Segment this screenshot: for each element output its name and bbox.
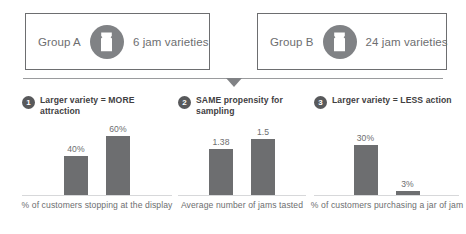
chart-2-plot: 1.38 1.5: [178, 116, 306, 196]
finding-1: 1 Larger variety = MORE attraction: [22, 95, 162, 117]
finding-2-title: SAME propensity for sampling: [196, 95, 306, 117]
chart-1-bar-group-a: 40%: [64, 116, 88, 196]
bar: [251, 139, 275, 196]
chart-2-caption: Average number of jams tasted: [176, 200, 308, 212]
chart-3-bar-group-a: 30%: [354, 116, 378, 196]
chart-3-caption: % of customers purchasing a jar of jam: [308, 200, 466, 212]
chart-3-value-group-a: 30%: [357, 133, 375, 143]
jam-jar-icon: [323, 25, 357, 59]
chart-jams-tasted: 1.38 1.5: [178, 116, 306, 196]
down-triangle-arrow-icon: [226, 78, 242, 87]
finding-3-title: Larger variety = LESS action: [332, 95, 452, 106]
chart-2-bar-group-b: 1.5: [251, 116, 275, 196]
infographic-canvas: Group A 6 jam varieties Group B 24 jam v…: [0, 0, 466, 234]
finding-2-header: 2 SAME propensity for sampling: [178, 95, 306, 117]
finding-2: 2 SAME propensity for sampling: [178, 95, 306, 117]
chart-2-baseline: [178, 195, 306, 196]
group-b-label: Group B: [270, 36, 314, 48]
chart-3-value-group-b: 3%: [401, 179, 414, 189]
chart-1-value-group-b: 60%: [109, 124, 127, 134]
finding-3-header: 3 Larger variety = LESS action: [314, 95, 454, 109]
finding-2-number-badge: 2: [178, 96, 191, 109]
chart-2-value-group-a: 1.38: [212, 137, 229, 147]
group-a-value: 6 jam varieties: [133, 36, 209, 48]
chart-1-caption: % of customers stopping at the display: [12, 200, 182, 212]
bar: [209, 149, 233, 196]
jam-jar-icon: [90, 25, 124, 59]
chart-1-plot: 40% 60%: [22, 116, 172, 196]
group-a-label: Group A: [38, 36, 81, 48]
group-a-box: Group A 6 jam varieties: [25, 13, 210, 70]
bar: [64, 156, 88, 196]
finding-1-number-badge: 1: [22, 96, 35, 109]
group-b-value: 24 jam varieties: [366, 36, 448, 48]
chart-1-baseline: [22, 195, 172, 196]
chart-3-bar-group-b: 3%: [396, 116, 420, 196]
bar: [106, 136, 130, 196]
group-b-box: Group B 24 jam varieties: [257, 13, 447, 70]
chart-2-value-group-b: 1.5: [257, 127, 269, 137]
finding-1-title: Larger variety = MORE attraction: [40, 95, 162, 117]
chart-customers-purchasing: 30% 3%: [314, 116, 459, 196]
chart-2-bar-group-a: 1.38: [209, 116, 233, 196]
chart-3-baseline: [314, 195, 459, 196]
finding-3-number-badge: 3: [314, 96, 327, 109]
chart-3-plot: 30% 3%: [314, 116, 459, 196]
bar: [354, 145, 378, 196]
chart-customers-stopping: 40% 60%: [22, 116, 172, 196]
chart-1-bar-group-b: 60%: [106, 116, 130, 196]
finding-3: 3 Larger variety = LESS action: [314, 95, 454, 109]
finding-1-header: 1 Larger variety = MORE attraction: [22, 95, 162, 117]
chart-1-value-group-a: 40%: [67, 144, 85, 154]
